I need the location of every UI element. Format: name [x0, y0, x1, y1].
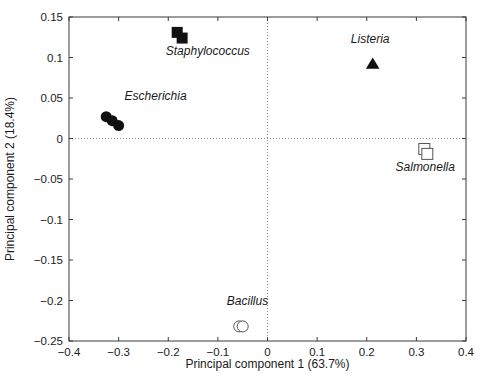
group-label-salmonella: Salmonella [396, 160, 456, 174]
data-point-salmonella [422, 148, 433, 159]
x-tick-label: 0.4 [458, 346, 475, 358]
x-tick-label: −0.4 [58, 346, 81, 358]
y-tick-label: 0 [57, 133, 63, 145]
y-axis-title: Principal component 2 (18.4%) [3, 97, 17, 261]
caption-band [0, 374, 491, 391]
data-point-staphylococcus [177, 33, 188, 44]
x-tick-label: −0.2 [157, 346, 180, 358]
scatter-plot: −0.4−0.3−0.2−0.100.10.20.30.40.150.10.05… [0, 0, 491, 391]
data-point-bacillus [237, 321, 248, 332]
x-tick-label: −0.3 [107, 346, 130, 358]
data-point-listeria [366, 58, 380, 69]
x-tick-label: 0.2 [359, 346, 375, 358]
y-tick-label: 0.1 [47, 52, 63, 64]
group-label-staphylococcus: Staphylococcus [166, 44, 250, 58]
data-point-escherichia [113, 120, 124, 131]
x-axis-title: Principal component 1 (63.7%) [185, 357, 349, 371]
y-tick-label: −0.15 [34, 254, 63, 266]
y-tick-label: 0.05 [41, 92, 63, 104]
y-tick-label: −0.1 [40, 214, 63, 226]
figure-container: −0.4−0.3−0.2−0.100.10.20.30.40.150.10.05… [0, 0, 491, 391]
y-tick-label: −0.2 [40, 295, 63, 307]
group-label-bacillus: Bacillus [227, 294, 268, 308]
y-tick-label: 0.15 [41, 11, 63, 23]
group-label-listeria: Listeria [351, 32, 390, 46]
x-tick-label: 0.3 [408, 346, 424, 358]
group-label-escherichia: Escherichia [125, 89, 187, 103]
y-tick-label: −0.05 [34, 173, 63, 185]
y-tick-label: −0.25 [34, 335, 63, 347]
